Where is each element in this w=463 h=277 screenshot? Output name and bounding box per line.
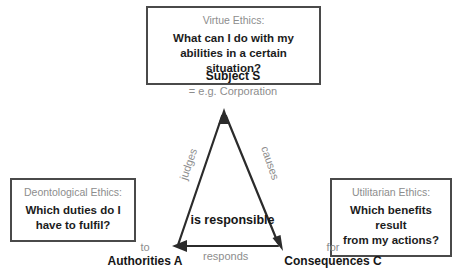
node-consequences-title: Consequences C	[258, 254, 408, 269]
diagram-canvas: Virtue Ethics: What can I do with my abi…	[0, 0, 463, 277]
virtue-ethics-question-line-1: What can I do with my	[154, 31, 313, 46]
node-consequences-preposition: for	[258, 240, 408, 254]
utilitarian-ethics-heading: Utilitarian Ethics:	[338, 185, 444, 200]
node-consequences: for Consequences C	[258, 240, 408, 269]
node-subject: Subject S = e.g. Corporation	[143, 69, 323, 99]
node-authorities-preposition: to	[75, 240, 215, 254]
node-subject-subtitle: = e.g. Corporation	[143, 84, 323, 99]
arrow-up-icon	[219, 108, 230, 124]
deontological-ethics-question-line-1: Which duties do I	[18, 203, 128, 218]
node-authorities: to Authorities A	[75, 240, 215, 269]
edge-label-judges: judges	[177, 147, 199, 182]
virtue-ethics-heading: Virtue Ethics:	[154, 13, 313, 28]
deontological-ethics-heading: Deontological Ethics:	[18, 185, 128, 200]
utilitarian-ethics-question-line-1: Which benefits result	[338, 203, 444, 233]
node-subject-title: Subject S	[143, 69, 323, 84]
deontological-ethics-question-line-2: have to fulfil?	[18, 218, 128, 233]
deontological-ethics-box: Deontological Ethics: Which duties do I …	[10, 178, 136, 242]
node-authorities-title: Authorities A	[75, 254, 215, 269]
edge-label-is-responsible: is responsible	[160, 213, 305, 227]
edge-label-responds: responds	[203, 250, 248, 262]
edge-label-causes: causes	[259, 145, 282, 182]
